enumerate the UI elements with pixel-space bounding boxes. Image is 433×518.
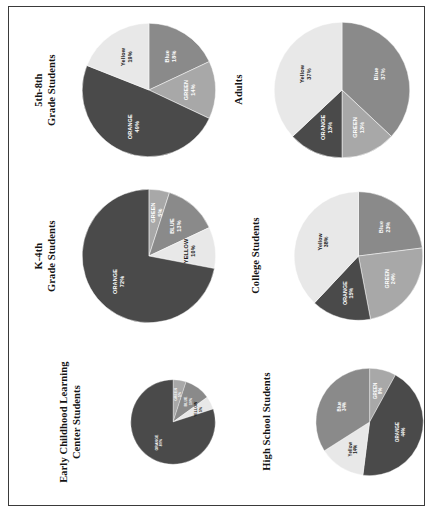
svg-text:49%: 49%	[134, 121, 140, 132]
chart-title-text: Adults	[232, 75, 245, 105]
svg-text:GREEN: GREEN	[174, 388, 178, 401]
svg-text:37%: 37%	[381, 68, 387, 80]
svg-text:5%: 5%	[179, 392, 183, 397]
chart-title-college: College Students	[217, 173, 294, 339]
svg-text:72%: 72%	[119, 276, 125, 287]
pie-slice-label-blue: Blue34%	[336, 401, 347, 411]
svg-text:18%: 18%	[171, 50, 177, 61]
svg-text:Yellow: Yellow	[347, 442, 352, 457]
pie-chart-grid: 5th-8thGrade StudentsBlue18%GREEN14%ORAN…	[9, 7, 424, 505]
chart-title-high-school: High School Students	[217, 339, 315, 505]
chart-cell-early-childhood: Early Childhood LearningCenter StudentsG…	[9, 339, 217, 505]
pie-chart-early-childhood: GREEN5%BLUE10%YELLOW5%ORANGE80%	[130, 353, 216, 491]
svg-text:37%: 37%	[306, 68, 312, 80]
chart-title-text: High School Students	[259, 373, 272, 471]
svg-text:44%: 44%	[401, 427, 406, 436]
svg-text:Blue: Blue	[374, 67, 380, 80]
figure-border: 5th-8thGrade StudentsBlue18%GREEN14%ORAN…	[8, 6, 425, 506]
svg-text:Blue: Blue	[336, 401, 341, 411]
svg-text:34%: 34%	[342, 402, 347, 411]
svg-text:10%: 10%	[189, 245, 195, 256]
chart-cell-k-4: K-4thGrade StudentsGREEN5%BLUE13%YELLOW1…	[9, 173, 217, 339]
pie-container-k-4: GREEN5%BLUE13%YELLOW10%ORANGE72%	[81, 173, 217, 339]
svg-text:ORANGE: ORANGE	[395, 422, 400, 442]
pie-chart-adults: Blue37%GREEN13%ORANGE13%Yellow37%	[273, 21, 411, 159]
svg-text:14%: 14%	[353, 445, 358, 454]
svg-text:8%: 8%	[378, 387, 383, 394]
svg-text:BLUE: BLUE	[169, 218, 175, 234]
pie-chart-k-4: GREEN5%BLUE13%YELLOW10%ORANGE72%	[81, 187, 217, 325]
chart-title-early-childhood: Early Childhood LearningCenter Students	[9, 339, 130, 505]
pie-slice-label-blue: Blue37%	[374, 67, 387, 80]
svg-text:GREEN: GREEN	[352, 117, 358, 138]
chart-title-grade-5-8: 5th-8thGrade Students	[9, 7, 81, 173]
chart-cell-high-school: High School StudentsGREEN8%ORANGE44%Yell…	[217, 339, 425, 505]
svg-text:80%: 80%	[159, 439, 163, 446]
svg-text:19%: 19%	[127, 51, 133, 62]
pie-slice-label-blue: Blue18%	[164, 50, 177, 63]
svg-text:ORANGE: ORANGE	[127, 114, 133, 139]
chart-title-adults: Adults	[217, 7, 261, 173]
pie-chart-college: Blue23%GREEN24%ORANGE15%Yellow38%	[293, 187, 424, 325]
svg-text:Yellow: Yellow	[299, 64, 305, 83]
pie-slice-label-blue: Blue23%	[378, 221, 391, 233]
pie-container-high-school: GREEN8%ORANGE44%Yellow14%Blue34%	[315, 339, 424, 505]
chart-column-right: AdultsBlue37%GREEN13%ORANGE13%Yellow37%C…	[217, 7, 425, 505]
chart-title-text: 5th-8thGrade Students	[32, 54, 58, 126]
svg-text:13%: 13%	[327, 122, 333, 134]
svg-text:5%: 5%	[156, 208, 162, 216]
pie-container-college: Blue23%GREEN24%ORANGE15%Yellow38%	[293, 173, 424, 339]
svg-text:ORANGE: ORANGE	[320, 114, 326, 140]
svg-text:10%: 10%	[189, 398, 193, 405]
chart-title-k-4: K-4thGrade Students	[9, 173, 81, 339]
chart-title-text: K-4thGrade Students	[32, 220, 58, 292]
svg-text:15%: 15%	[348, 287, 354, 298]
svg-text:13%: 13%	[176, 220, 182, 231]
svg-text:YELLOW: YELLOW	[195, 401, 199, 417]
svg-text:Yellow: Yellow	[120, 47, 126, 66]
svg-text:14%: 14%	[190, 84, 196, 95]
svg-text:ORANGE: ORANGE	[155, 434, 159, 450]
svg-text:GREEN: GREEN	[183, 80, 189, 100]
pie-container-adults: Blue37%GREEN13%ORANGE13%Yellow37%	[261, 7, 425, 173]
svg-text:13%: 13%	[359, 122, 365, 134]
svg-text:BLUE: BLUE	[185, 396, 189, 406]
svg-text:YELLOW: YELLOW	[182, 238, 188, 263]
pie-container-grade-5-8: Blue18%GREEN14%ORANGE49%Yellow19%	[81, 7, 217, 173]
svg-text:GREEN: GREEN	[150, 202, 156, 222]
svg-text:Yellow: Yellow	[317, 232, 323, 250]
pie-chart-grade-5-8: Blue18%GREEN14%ORANGE49%Yellow19%	[81, 21, 217, 159]
chart-title-text: Early Childhood LearningCenter Students	[57, 361, 83, 482]
chart-column-left: 5th-8thGrade StudentsBlue18%GREEN14%ORAN…	[9, 7, 217, 505]
chart-title-text: College Students	[248, 218, 261, 295]
svg-text:24%: 24%	[390, 273, 396, 284]
svg-text:GREEN: GREEN	[384, 269, 390, 289]
chart-cell-college: College StudentsBlue23%GREEN24%ORANGE15%…	[217, 173, 425, 339]
svg-text:ORANGE: ORANGE	[342, 281, 348, 305]
svg-text:GREEN: GREEN	[373, 383, 378, 399]
chart-cell-grade-5-8: 5th-8thGrade StudentsBlue18%GREEN14%ORAN…	[9, 7, 217, 173]
svg-text:38%: 38%	[323, 236, 329, 247]
pie-chart-high-school: GREEN8%ORANGE44%Yellow14%Blue34%	[315, 353, 424, 491]
svg-text:5%: 5%	[199, 407, 203, 412]
chart-cell-adults: AdultsBlue37%GREEN13%ORANGE13%Yellow37%	[217, 7, 425, 173]
pie-container-early-childhood: GREEN5%BLUE10%YELLOW5%ORANGE80%	[130, 339, 216, 505]
svg-text:ORANGE: ORANGE	[112, 269, 118, 294]
svg-text:Blue: Blue	[378, 221, 384, 233]
pie-slice-label-blue: BLUE13%	[169, 218, 182, 234]
svg-text:Blue: Blue	[164, 50, 170, 63]
svg-text:23%: 23%	[385, 221, 391, 232]
